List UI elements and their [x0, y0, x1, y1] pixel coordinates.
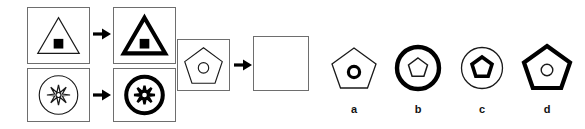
- option-d-label: d: [518, 103, 576, 115]
- option-b[interactable]: [390, 42, 446, 94]
- example-2-arrow: [92, 87, 112, 103]
- option-b-label: b: [390, 103, 446, 115]
- circle-with-starburst-thin-icon: [28, 69, 89, 121]
- arrow-right-icon: [92, 87, 112, 103]
- example-2-prompt-panel: [27, 68, 90, 122]
- triangle-with-square-bold-icon: [114, 8, 175, 63]
- question-arrow: [233, 57, 253, 73]
- circle-thin-with-pentagon-bold-icon: [454, 42, 510, 94]
- empty-answer-content: [254, 37, 308, 90]
- example-1-arrow: [92, 26, 112, 42]
- option-c-label: c: [454, 103, 510, 115]
- option-d[interactable]: [518, 40, 576, 94]
- option-a[interactable]: [326, 42, 382, 94]
- question-prompt-panel: [177, 39, 230, 91]
- arrow-right-icon: [92, 26, 112, 42]
- example-2-result-panel: [113, 68, 176, 122]
- circle-bold-with-pentagon-thin-icon: [390, 42, 446, 94]
- example-1-prompt-panel: [27, 7, 90, 64]
- empty-answer-box[interactable]: [253, 36, 309, 91]
- arrow-right-icon: [233, 57, 253, 73]
- triangle-with-square-thin-icon: [28, 8, 89, 63]
- example-1-result-panel: [113, 7, 176, 64]
- pentagon-with-circle-thin-icon: [178, 40, 229, 90]
- puzzle-canvas: a b c d: [0, 0, 585, 129]
- option-c[interactable]: [454, 42, 510, 94]
- pentagon-bold-with-circle-thin-icon: [518, 40, 576, 94]
- option-a-label: a: [326, 103, 382, 115]
- pentagon-thin-with-circle-bold-icon: [326, 42, 382, 94]
- circle-with-starburst-bold-icon: [114, 69, 175, 121]
